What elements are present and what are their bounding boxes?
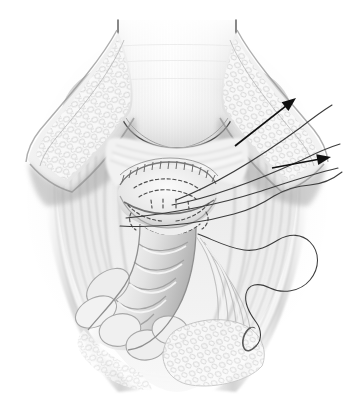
surgical-illustration [0, 0, 354, 406]
figure-root: Surgical illustration: vesicourethral an… [0, 0, 354, 406]
